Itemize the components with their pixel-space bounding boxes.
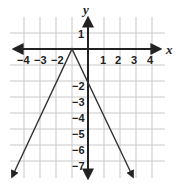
y-tick: 1	[78, 28, 84, 40]
y-tick: −5	[72, 128, 85, 140]
y-tick: −6	[72, 144, 85, 156]
x-tick: 3	[131, 54, 137, 66]
y-tick: −4	[72, 112, 85, 124]
x-tick: −3	[34, 54, 47, 66]
y-tick: −3	[72, 96, 85, 108]
x-tick: 1	[100, 54, 106, 66]
x-tick: 4	[147, 54, 154, 66]
y-axis-label: y	[81, 2, 89, 17]
x-axis-label: x	[165, 42, 173, 57]
x-tick: −2	[51, 54, 64, 66]
coordinate-plane: x y −4 −3 −2 1 2 3 4 1 −2 −3 −4 −5 −6 −7	[0, 0, 180, 187]
x-tick: −4	[17, 54, 30, 66]
y-tick: −7	[72, 160, 85, 172]
y-tick: −2	[72, 80, 85, 92]
x-tick: 2	[115, 54, 121, 66]
